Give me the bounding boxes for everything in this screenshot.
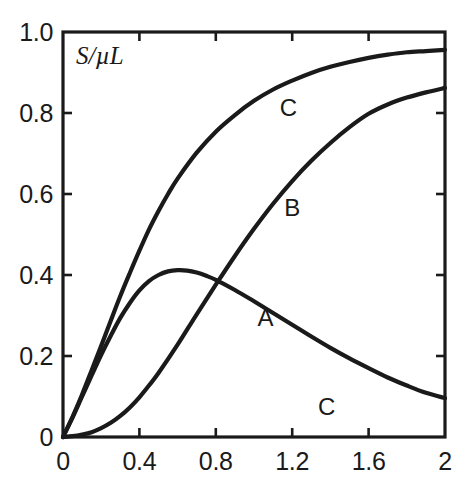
y-tick-label: 0.6 — [19, 180, 53, 209]
y-tick-label: 1.0 — [19, 18, 53, 47]
curve-label-a: A — [257, 304, 273, 332]
y-tick-label: 0.2 — [19, 342, 53, 371]
y-tick-label: 0 — [39, 423, 53, 452]
x-tick-label: 0.4 — [122, 447, 156, 476]
chart-figure: S/µL 00.20.40.60.81.0 00.40.81.21.62 ABC… — [0, 0, 473, 485]
plot-area — [0, 0, 473, 485]
x-tick-label: 0.8 — [199, 447, 233, 476]
curve-label-c: C — [280, 94, 297, 122]
x-tick-label: 2 — [438, 447, 452, 476]
y-tick-label: 0.4 — [19, 261, 53, 290]
y-axis-title: S/µL — [76, 42, 124, 70]
x-tick-label: 0 — [56, 447, 70, 476]
curve-b — [63, 88, 445, 437]
curve-label-c-lower: C — [318, 393, 335, 421]
x-tick-label: 1.6 — [352, 447, 386, 476]
x-tick-label: 1.2 — [275, 447, 309, 476]
data-curves — [63, 50, 445, 437]
curve-label-b: B — [284, 194, 300, 222]
y-tick-label: 0.8 — [19, 99, 53, 128]
